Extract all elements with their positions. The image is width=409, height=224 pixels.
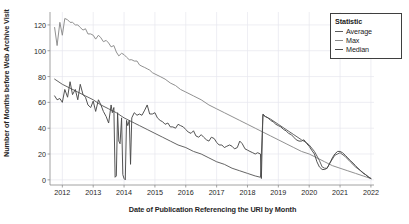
x-tick-label: 2012 (54, 188, 70, 197)
legend-item-max[interactable]: Max (335, 36, 397, 45)
x-axis-label: Date of Publication Referencing the URI … (50, 205, 375, 214)
y-tick-label: 60 (18, 98, 46, 107)
series-line-median (55, 82, 371, 180)
chart-figure: Number of Months before Web Archive Visi… (0, 0, 409, 224)
legend-line-icon (335, 40, 343, 42)
series-line-max (55, 18, 371, 178)
x-tick-label: 2013 (85, 188, 101, 197)
x-tick-label: 2014 (116, 188, 132, 197)
series-line-average (55, 79, 371, 178)
y-tick-label: 40 (18, 124, 46, 133)
x-tick-label: 2020 (301, 188, 317, 197)
x-tick-label: 2016 (178, 188, 194, 197)
legend-item-median[interactable]: Median (335, 45, 397, 54)
legend-item-label: Median (346, 45, 369, 54)
legend-item-label: Average (346, 27, 372, 36)
y-tick-label: 80 (18, 72, 46, 81)
legend-line-icon (335, 49, 343, 51)
axis-ticks (48, 25, 371, 188)
y-tick-label: 120 (18, 20, 46, 29)
data-series-group (55, 18, 371, 179)
x-tick-label: 2017 (209, 188, 225, 197)
y-axis-tick-labels: 020406080100120 (14, 0, 46, 224)
legend-item-label: Max (346, 36, 359, 45)
y-tick-label: 100 (18, 46, 46, 55)
x-tick-label: 2018 (239, 188, 255, 197)
legend-line-icon (335, 31, 343, 33)
y-tick-label: 20 (18, 150, 46, 159)
y-tick-label: 0 (18, 175, 46, 184)
x-tick-label: 2019 (270, 188, 286, 197)
x-tick-label: 2015 (147, 188, 163, 197)
x-tick-label: 2021 (332, 188, 348, 197)
legend: Statistic AverageMaxMedian (330, 13, 402, 59)
legend-title: Statistic (335, 17, 397, 26)
legend-entries: AverageMaxMedian (335, 27, 397, 54)
x-tick-label: 2022 (363, 188, 379, 197)
legend-item-average[interactable]: Average (335, 27, 397, 36)
